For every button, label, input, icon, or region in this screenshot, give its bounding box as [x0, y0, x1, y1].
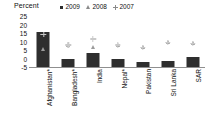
marker-2007[interactable] — [115, 42, 120, 47]
marker-2008[interactable] — [91, 45, 95, 49]
y-axis-ticks: 2520151050-5 — [0, 14, 29, 67]
triangle-marker-icon — [86, 4, 91, 11]
marker-2007[interactable] — [66, 42, 71, 47]
y-tick-label: 10 — [20, 38, 27, 45]
bar-group — [56, 16, 81, 67]
legend-label-2008: 2008 — [92, 3, 106, 11]
bar-group — [130, 16, 155, 67]
y-tick-label: 15 — [20, 30, 27, 37]
marker-2007[interactable] — [190, 41, 195, 46]
x-tick-label: Nepal* — [121, 69, 128, 89]
bar-group — [81, 16, 106, 67]
y-tick-label: 5 — [23, 47, 27, 54]
plot-area — [31, 16, 205, 67]
bar-2009[interactable] — [161, 61, 174, 67]
legend-item-2009[interactable]: 2009 — [59, 3, 80, 11]
x-tick-label: Sri Lanka — [170, 69, 177, 96]
bar-2009[interactable] — [87, 53, 100, 67]
square-marker-icon — [59, 4, 64, 11]
bar-group — [106, 16, 131, 67]
x-tick-label: SAR — [195, 69, 202, 82]
bar-group — [180, 16, 205, 67]
y-tick-label: 25 — [20, 13, 27, 20]
marker-2007[interactable] — [41, 32, 46, 37]
bar-series-group — [31, 16, 205, 67]
bar-group — [31, 16, 56, 67]
bar-2009[interactable] — [111, 59, 124, 67]
x-tick-label: India — [96, 69, 103, 83]
x-tick-label: Afghanistan* — [46, 69, 53, 106]
legend-item-2008[interactable]: 2008 — [86, 3, 107, 11]
x-tick-label: Bangladesh* — [71, 69, 78, 106]
x-tick-label: Pakistan — [145, 69, 152, 94]
bar-2009[interactable] — [136, 62, 149, 67]
chart-legend: 2009 2008 2007 — [59, 3, 134, 11]
legend-item-2007[interactable]: 2007 — [113, 3, 134, 11]
marker-2007[interactable] — [165, 40, 170, 45]
bar-chart: Percent 2009 2008 2007 2520151050-5 Afgh… — [0, 0, 210, 124]
y-tick-label: 20 — [20, 21, 27, 28]
legend-label-2007: 2007 — [119, 3, 133, 11]
plus-marker-icon — [113, 4, 118, 11]
legend-label-2009: 2009 — [66, 3, 80, 11]
marker-2007[interactable] — [90, 36, 95, 41]
bar-group — [155, 16, 180, 67]
bar-2009[interactable] — [62, 59, 75, 68]
bar-2009[interactable] — [186, 57, 199, 67]
y-tick-label: -5 — [21, 64, 27, 71]
y-axis-title: Percent — [14, 2, 39, 9]
marker-2008[interactable] — [41, 47, 45, 51]
x-axis-labels: Afghanistan*Bangladesh*IndiaNepal*Pakist… — [31, 69, 205, 124]
y-tick-label: 0 — [23, 55, 27, 62]
marker-2007[interactable] — [140, 45, 145, 50]
